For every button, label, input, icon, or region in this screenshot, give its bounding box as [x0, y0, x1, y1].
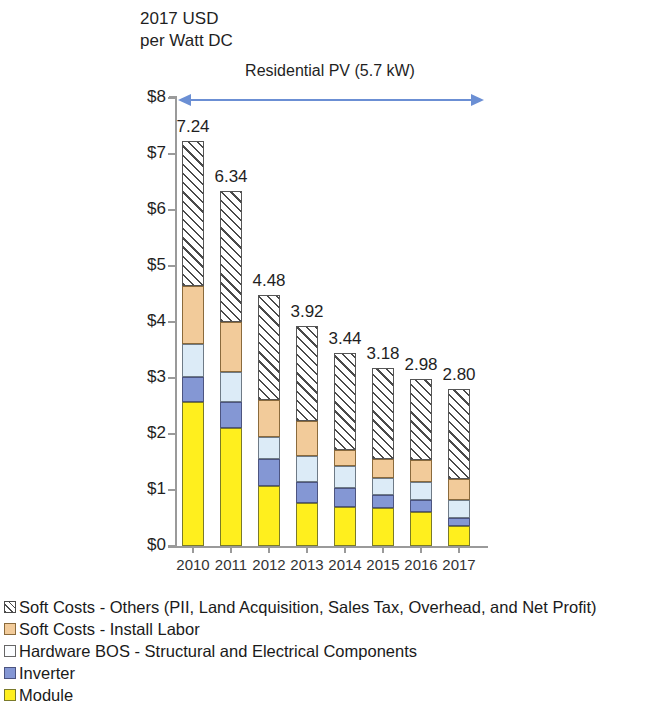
bar-segment-module[interactable]: [372, 508, 394, 546]
y-axis-label: $4: [126, 311, 166, 331]
bar-2012[interactable]: [258, 98, 280, 546]
bar-segment-bos[interactable]: [220, 372, 242, 402]
bar-total-label: 7.24: [165, 117, 221, 137]
bar-segment-soft[interactable]: [410, 379, 432, 460]
bar-segment-soft[interactable]: [258, 295, 280, 400]
x-axis-line: [168, 546, 488, 548]
bar-segment-inverter[interactable]: [182, 377, 204, 402]
y-axis-tick: [168, 545, 176, 547]
bar-segment-inverter[interactable]: [334, 488, 356, 506]
bar-segment-bos[interactable]: [182, 344, 204, 377]
x-axis-tick: [230, 546, 232, 553]
span-label: Residential PV (5.7 kW): [180, 62, 480, 80]
y-axis-tick: [168, 153, 176, 155]
bar-segment-soft[interactable]: [182, 141, 204, 286]
legend-label: Module: [19, 686, 73, 705]
bar-segment-bos[interactable]: [296, 456, 318, 482]
bar-segment-module[interactable]: [448, 526, 470, 546]
bar-segment-inverter[interactable]: [220, 402, 242, 428]
x-axis-tick: [420, 546, 422, 553]
legend-item-labor[interactable]: Soft Costs - Install Labor: [4, 618, 671, 640]
bar-2014[interactable]: [334, 98, 356, 546]
bar-segment-bos[interactable]: [372, 478, 394, 495]
x-axis-label: 2017: [437, 556, 481, 573]
bar-segment-bos[interactable]: [448, 500, 470, 518]
bar-segment-labor[interactable]: [448, 479, 470, 499]
legend-item-soft[interactable]: Soft Costs - Others (PII, Land Acquisiti…: [4, 596, 671, 618]
legend-label: Hardware BOS - Structural and Electrical…: [19, 642, 417, 661]
y-axis-label: $6: [126, 199, 166, 219]
y-axis-tick: [168, 209, 176, 211]
bar-segment-module[interactable]: [410, 512, 432, 546]
bar-2016[interactable]: [410, 98, 432, 546]
x-axis-tick: [192, 546, 194, 553]
y-axis-label: $8: [126, 87, 166, 107]
bar-segment-labor[interactable]: [410, 460, 432, 481]
y-axis-label: $5: [126, 255, 166, 275]
chart-legend: Soft Costs - Others (PII, Land Acquisiti…: [4, 596, 671, 706]
bar-segment-bos[interactable]: [410, 482, 432, 500]
bar-segment-bos[interactable]: [258, 437, 280, 459]
y-axis-label: $0: [126, 535, 166, 555]
y-axis-tick: [168, 321, 176, 323]
x-axis-tick: [268, 546, 270, 553]
x-axis-tick: [344, 546, 346, 553]
bar-total-label: 3.92: [279, 302, 335, 322]
bar-total-label: 6.34: [203, 167, 259, 187]
y-axis-label: $3: [126, 367, 166, 387]
y-axis-tick: [168, 97, 176, 99]
bar-total-label: 4.48: [241, 271, 297, 291]
bar-segment-labor[interactable]: [296, 421, 318, 456]
bar-segment-module[interactable]: [182, 402, 204, 546]
bar-segment-soft[interactable]: [296, 326, 318, 420]
bar-2010[interactable]: [182, 98, 204, 546]
y-axis-tick: [168, 265, 176, 267]
bar-segment-inverter[interactable]: [410, 500, 432, 512]
bar-segment-inverter[interactable]: [372, 495, 394, 508]
y-axis-title: 2017 USD per Watt DC: [140, 8, 233, 52]
legend-item-inverter[interactable]: Inverter: [4, 662, 671, 684]
bar-segment-labor[interactable]: [220, 322, 242, 372]
y-axis-label: $2: [126, 423, 166, 443]
y-axis-tick: [168, 433, 176, 435]
bar-2011[interactable]: [220, 98, 242, 546]
y-axis-label: $7: [126, 143, 166, 163]
legend-swatch-bos-icon: [4, 645, 16, 657]
bar-segment-labor[interactable]: [182, 286, 204, 344]
bar-segment-inverter[interactable]: [296, 482, 318, 503]
x-axis-tick: [458, 546, 460, 553]
bar-segment-inverter[interactable]: [448, 518, 470, 526]
bar-segment-inverter[interactable]: [258, 459, 280, 485]
legend-swatch-inverter-icon: [4, 667, 16, 679]
legend-item-module[interactable]: Module: [4, 684, 671, 706]
x-axis-tick: [306, 546, 308, 553]
bar-segment-module[interactable]: [334, 507, 356, 546]
legend-label: Soft Costs - Others (PII, Land Acquisiti…: [19, 598, 596, 617]
legend-item-bos[interactable]: Hardware BOS - Structural and Electrical…: [4, 640, 671, 662]
bar-segment-soft[interactable]: [334, 353, 356, 449]
y-axis-label: $1: [126, 479, 166, 499]
legend-label: Inverter: [19, 664, 75, 683]
y-axis-tick: [168, 377, 176, 379]
bar-2015[interactable]: [372, 98, 394, 546]
x-axis-tick: [382, 546, 384, 553]
bar-segment-soft[interactable]: [372, 368, 394, 459]
bar-segment-bos[interactable]: [334, 466, 356, 488]
bar-segment-module[interactable]: [296, 503, 318, 546]
bar-total-label: 2.80: [431, 365, 487, 385]
bar-segment-labor[interactable]: [258, 400, 280, 436]
y-axis-tick: [168, 489, 176, 491]
legend-swatch-module-icon: [4, 689, 16, 701]
bar-segment-soft[interactable]: [448, 389, 470, 479]
bar-segment-soft[interactable]: [220, 191, 242, 322]
bar-segment-labor[interactable]: [334, 450, 356, 466]
chart-container: 2017 USD per Watt DC Residential PV (5.7…: [0, 0, 671, 709]
legend-swatch-labor-icon: [4, 623, 16, 635]
bar-segment-labor[interactable]: [372, 459, 394, 478]
legend-swatch-soft-icon: [4, 601, 16, 613]
legend-label: Soft Costs - Install Labor: [19, 620, 200, 639]
bar-segment-module[interactable]: [258, 486, 280, 546]
bar-2017[interactable]: [448, 98, 470, 546]
bar-segment-module[interactable]: [220, 428, 242, 546]
